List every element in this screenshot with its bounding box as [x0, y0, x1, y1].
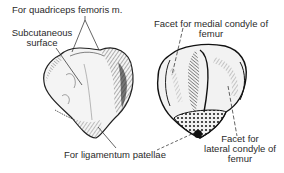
leader-quadriceps-left — [72, 20, 85, 52]
label-lateral-facet-line3: femur — [199, 154, 281, 164]
label-quadriceps: For quadriceps femoris m. — [12, 5, 122, 15]
leader-ligamentum-left — [98, 127, 116, 148]
patella-anterior-view — [44, 48, 133, 138]
label-medial-facet-line2: femur — [146, 29, 276, 39]
label-lateral-facet: Facet for lateral condyle of femur — [199, 134, 281, 164]
label-ligamentum: For ligamentum patellae — [64, 150, 166, 160]
label-subcutaneous-line2: surface — [11, 38, 73, 48]
leader-ligamentum-right — [157, 133, 194, 150]
patella-posterior-view — [158, 44, 247, 138]
label-medial-facet: Facet for medial condyle of femur — [146, 19, 276, 39]
leader-quadriceps-right — [85, 20, 99, 50]
label-subcutaneous: Subcutaneous surface — [11, 28, 73, 48]
